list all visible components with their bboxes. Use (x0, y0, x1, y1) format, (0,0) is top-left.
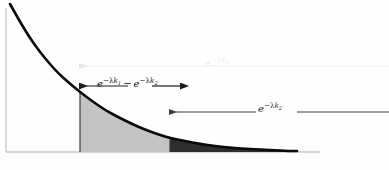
label-bottom-exponent-prefix: −λ (264, 101, 275, 110)
figure-canvas (0, 0, 389, 170)
label-top-exponent-prefix: −λ (211, 55, 222, 64)
label-middle-difference: e−λk1−e−λk2 (97, 78, 158, 89)
label-top-exponent-sub: 1 (226, 59, 229, 65)
label-middle-left-exponent-prefix: −λ (103, 76, 114, 85)
label-middle-operator: − (121, 78, 133, 89)
label-top-exponential: e−λk1 (205, 57, 229, 68)
label-bottom-exponential: e−λk2 (258, 103, 282, 114)
label-middle-right-exponent-sub: 2 (154, 80, 157, 86)
exponential-decay-figure: e−λk1 e−λk1−e−λk2 e−λk2 (0, 0, 389, 170)
label-middle-right-exponent-prefix: −λ (139, 76, 150, 85)
label-bottom-exponent-sub: 2 (279, 105, 282, 111)
